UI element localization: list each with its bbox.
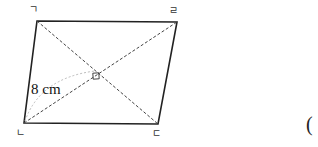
vertex-label-bottom-right: ㄷ bbox=[152, 128, 161, 139]
vertex-label-top-left: ㄱ bbox=[29, 4, 38, 15]
measurement-label: 8 cm bbox=[31, 81, 61, 97]
parallelogram-diagram: ㄱ ㄹ ㄴ ㄷ 8 cm ( bbox=[0, 0, 318, 147]
answer-open-paren: ( bbox=[306, 113, 313, 136]
vertex-label-top-right: ㄹ bbox=[169, 5, 178, 16]
diagonal-b-d bbox=[24, 22, 177, 123]
vertex-label-bottom-left: ㄴ bbox=[16, 127, 25, 138]
